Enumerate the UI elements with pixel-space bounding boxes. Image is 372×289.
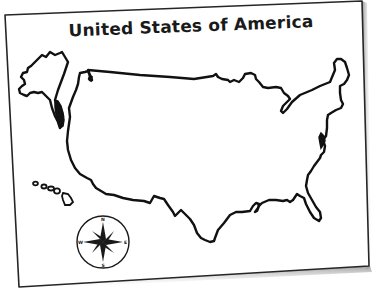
compass-west-label: W: [78, 240, 83, 245]
compass-rose: N S E W: [77, 216, 129, 268]
paper-border: [5, 1, 369, 287]
map-canvas: N S E W: [0, 0, 372, 289]
compass-north-label: N: [101, 217, 105, 222]
map-sheet: N S E W United States of America: [0, 0, 372, 289]
compass-south-label: S: [101, 263, 104, 268]
compass-east-label: E: [124, 240, 127, 245]
